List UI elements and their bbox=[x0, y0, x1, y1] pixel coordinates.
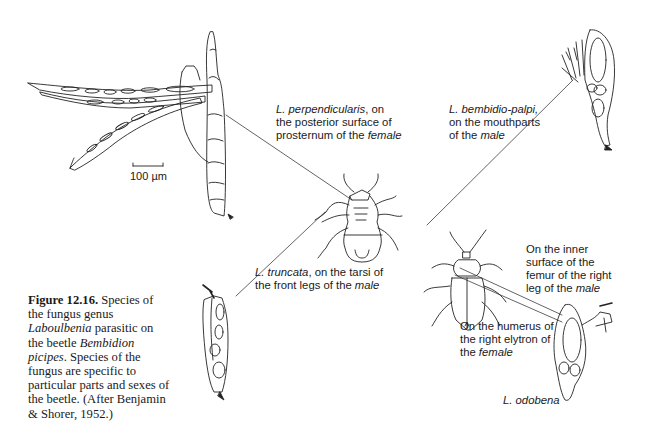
label-truncata: L. truncata, on the tarsi of the front l… bbox=[255, 266, 383, 292]
species-name: L. odobena bbox=[503, 394, 560, 406]
label-inner-femur: On the inner surface of the femur of the… bbox=[526, 243, 611, 295]
figure-number: Figure 12.16. bbox=[28, 293, 98, 307]
fungus-truncata-drawing bbox=[203, 285, 228, 400]
sex-label: male bbox=[480, 129, 505, 141]
fungus-odobena-drawing bbox=[554, 303, 612, 400]
sex-label: male bbox=[355, 279, 380, 291]
fungus-perpendicularis-drawing bbox=[28, 32, 233, 219]
label-bembidio-palpi: L. bembidio-palpi, on the mouthparts of … bbox=[449, 103, 540, 142]
label-humerus: On the humerus of the right elytron of t… bbox=[460, 320, 554, 359]
beetle-dorsal-drawing bbox=[424, 230, 506, 330]
species-name: L. perpendicularis bbox=[276, 103, 365, 115]
sex-label: female bbox=[368, 129, 402, 141]
species-name: L. bembidio-palpi, bbox=[449, 103, 538, 115]
species-name: L. truncata bbox=[255, 266, 308, 278]
scale-bar bbox=[133, 163, 163, 166]
fungus-bembidio-palpi-drawing bbox=[562, 30, 615, 150]
sex-label: female bbox=[479, 346, 513, 358]
figure-caption: Figure 12.16. Species of the fungus genu… bbox=[28, 293, 170, 421]
scale-bar-label: 100 µm bbox=[130, 170, 167, 182]
label-odobena: L. odobena bbox=[503, 394, 560, 407]
beetle-ventral-drawing bbox=[315, 174, 402, 262]
genus-name: Laboulbenia bbox=[28, 321, 92, 335]
sex-label: male bbox=[576, 282, 601, 294]
label-perpendicularis: L. perpendicularis, on the posterior sur… bbox=[276, 103, 402, 142]
